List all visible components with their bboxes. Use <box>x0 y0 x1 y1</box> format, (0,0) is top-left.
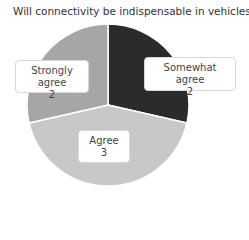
slice-label-text: Agree <box>85 135 123 147</box>
slice-label-text: Strongly agree <box>22 65 82 89</box>
slice-label-text: Somewhat agree <box>151 62 229 86</box>
slice-label-value: 2 <box>151 86 229 98</box>
slice-label-strongly-agree: Strongly agree 2 <box>15 60 89 93</box>
slice-label-agree: Agree 3 <box>78 130 130 163</box>
slice-label-somewhat-agree: Somewhat agree 2 <box>144 57 236 91</box>
slice-label-value: 2 <box>22 89 82 101</box>
slice-label-value: 3 <box>85 147 123 159</box>
